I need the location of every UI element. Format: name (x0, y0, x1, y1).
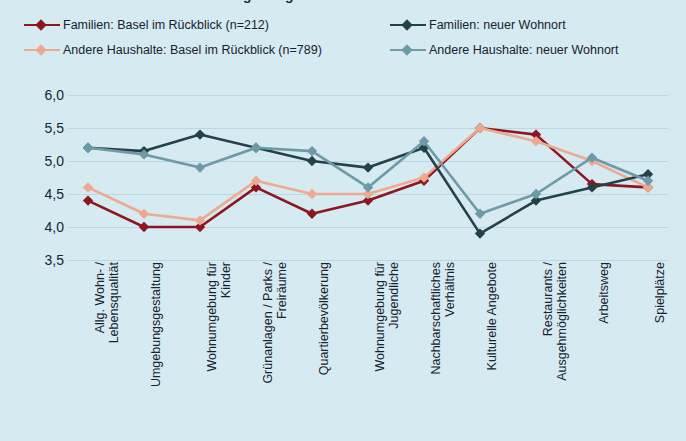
x-category-label-line: Allg. Wohn- / (94, 262, 108, 437)
x-category-label-line: Spielplätze (654, 262, 668, 437)
x-category-label-line: Wohnumgebung für (374, 262, 388, 437)
x-category-label-line: Quartierbevölkerung (318, 262, 332, 437)
x-category-label-line: Grünanlagen / Parks / (262, 262, 276, 437)
x-category-label: Kulturelle Angebote (486, 262, 504, 437)
x-category-label-line: Jugendliche (388, 262, 402, 437)
x-category-label-line: Nachbarschaftliches (430, 262, 444, 437)
diamond-marker-icon (307, 209, 317, 219)
diamond-marker-icon (83, 143, 93, 153)
diamond-marker-icon-1 (35, 44, 46, 55)
x-axis-category-labels: Allg. Wohn- /LebensqualitätUmgebungsgest… (68, 262, 686, 441)
y-tick-label: 3,5 (45, 252, 64, 268)
diamond-marker-icon (195, 162, 205, 172)
x-category-label: Wohnumgebung fürJugendliche (374, 262, 392, 437)
y-tick-label: 5,0 (45, 153, 64, 169)
x-category-label: NachbarschaftlichesVerhältnis (430, 262, 448, 437)
x-category-label-line: Kinder (220, 262, 234, 437)
plot-area (68, 95, 668, 260)
diamond-marker-icon-0 (35, 19, 46, 30)
x-category-label: Wohnumgebung fürKinder (206, 262, 224, 437)
diamond-marker-icon (363, 162, 373, 172)
diamond-marker-icon (139, 209, 149, 219)
diamond-marker-icon (83, 182, 93, 192)
legend-marker-icon-0 (24, 19, 60, 31)
x-category-label-line: Restaurants / (542, 262, 556, 437)
x-category-label: Quartierbevölkerung (318, 262, 336, 437)
x-category-label: Umgebungsgestaltung (150, 262, 168, 437)
x-category-label-line: Wohnumgebung für (206, 262, 220, 437)
x-category-label: Spielplätze (654, 262, 672, 437)
x-category-label-line: Ausgehmöglichkeiten (556, 262, 570, 437)
diamond-marker-icon (307, 156, 317, 166)
diamond-marker-icon (195, 129, 205, 139)
y-tick-label: 6,0 (45, 87, 64, 103)
y-tick-label: 5,5 (45, 120, 64, 136)
series-3 (83, 136, 653, 219)
diamond-marker-icon (83, 195, 93, 205)
x-category-label-line: Kulturelle Angebote (486, 262, 500, 437)
x-category-label-line: Verhältnis (444, 262, 458, 437)
x-category-label-line: Freiräume (276, 262, 290, 437)
diamond-marker-icon (251, 143, 261, 153)
chart-root: Zufriedenheit mit Wohnumgebung Familien:… (0, 0, 686, 441)
x-category-label: Restaurants /Ausgehmöglichkeiten (542, 262, 560, 437)
x-category-label-line: Lebensqualität (108, 262, 122, 437)
x-category-label: Arbeitsweg (598, 262, 616, 437)
y-axis-tick-labels: 6,05,55,04,54,03,5 (18, 80, 64, 275)
x-category-label-line: Umgebungsgestaltung (150, 262, 164, 437)
diamond-marker-icon (139, 222, 149, 232)
x-category-label: Allg. Wohn- /Lebensqualität (94, 262, 112, 437)
x-category-label-line: Arbeitsweg (598, 262, 612, 437)
diamond-marker-icon (307, 189, 317, 199)
y-tick-label: 4,5 (45, 186, 64, 202)
y-tick-label: 4,0 (45, 219, 64, 235)
legend-marker-icon-1 (24, 44, 60, 56)
x-category-label: Grünanlagen / Parks /Freiräume (262, 262, 280, 437)
